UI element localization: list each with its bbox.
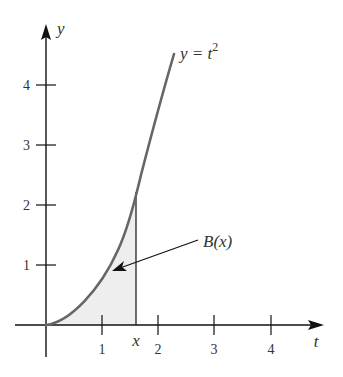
x-axis-label: t — [314, 332, 320, 351]
y-axis-label: y — [55, 19, 65, 38]
y-tick-label-3: 3 — [23, 138, 30, 153]
y-tick-label-1: 1 — [23, 258, 30, 273]
x-tick-label-2: 2 — [155, 342, 162, 357]
y-tick-label-4: 4 — [23, 78, 30, 93]
curve-label: y = t2 — [178, 40, 218, 63]
x-tick-label-3: 3 — [211, 342, 218, 357]
y-tick-label-2: 2 — [23, 198, 30, 213]
x-tick-label-1: 1 — [99, 342, 106, 357]
shaded-area-b — [46, 192, 136, 325]
x-tick-label-4: 4 — [268, 342, 275, 357]
x-marker-label: x — [131, 331, 140, 350]
area-under-curve-diagram: 1 2 3 4 1 2 3 4 x t y y = t2 B(x) — [0, 0, 343, 377]
area-label: B(x) — [203, 232, 233, 251]
